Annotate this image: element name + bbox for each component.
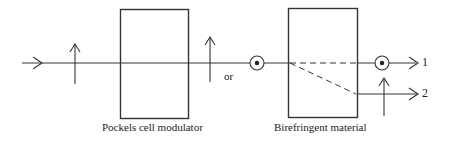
polarization-arrow-icon-2 [205, 37, 215, 82]
polarization-arrow-icon-1 [70, 44, 80, 84]
or-label: or [224, 70, 233, 82]
birefringent-label: Birefringent material [274, 121, 367, 133]
pockels-cell-label: Pockels cell modulator [102, 121, 203, 133]
pockels-cell-box [121, 10, 189, 119]
out-of-plane-polarization-icon-1 [250, 56, 264, 70]
output-2-label: 2 [422, 86, 428, 101]
internal-beam-paths [290, 63, 357, 94]
polarization-arrow-icon-3 [379, 78, 389, 116]
output-1-label: 1 [422, 55, 428, 70]
output-beam-2 [357, 88, 418, 100]
out-of-plane-polarization-icon-2 [375, 56, 389, 70]
